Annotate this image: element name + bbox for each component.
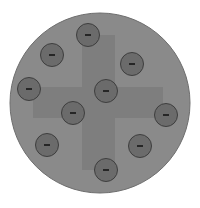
minus-sign-icon bbox=[103, 90, 109, 92]
minus-sign-icon bbox=[70, 112, 76, 114]
electron bbox=[95, 80, 118, 103]
minus-sign-icon bbox=[44, 144, 50, 146]
minus-sign-icon bbox=[103, 169, 109, 171]
electron bbox=[121, 53, 144, 76]
plum-pudding-atom-diagram bbox=[0, 0, 200, 208]
minus-sign-icon bbox=[137, 145, 143, 147]
minus-sign-icon bbox=[129, 63, 135, 65]
minus-sign-icon bbox=[26, 88, 32, 90]
minus-sign-icon bbox=[49, 54, 55, 56]
electron bbox=[18, 78, 41, 101]
electron bbox=[129, 135, 152, 158]
electron bbox=[155, 104, 178, 127]
minus-sign-icon bbox=[85, 34, 91, 36]
electron bbox=[77, 24, 100, 47]
electron bbox=[36, 134, 59, 157]
minus-sign-icon bbox=[163, 114, 169, 116]
electron bbox=[41, 44, 64, 67]
electron bbox=[62, 102, 85, 125]
electron bbox=[95, 159, 118, 182]
